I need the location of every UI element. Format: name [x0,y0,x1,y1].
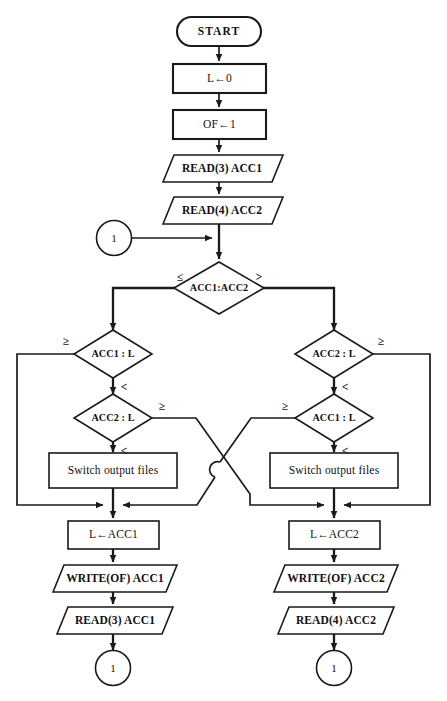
node-read4-top[interactable]: READ(4) ACC2 [163,197,283,224]
branch-label-left-acc1-ge: ≥ [63,335,69,347]
node-connector-exit-right[interactable]: 1 [317,651,352,686]
node-decision-main-label: ACC1:ACC2 [190,282,249,293]
node-read4-top-label: READ(4) ACC2 [182,204,262,217]
branch-label-right-acc2-lt: < [342,381,349,393]
node-set-l-acc1[interactable]: L←ACC1 [68,521,159,549]
node-connector-exit-left-label: 1 [110,662,116,674]
node-decision-left-acc1-label: ACC1 : L [91,348,134,359]
node-set-l-acc2-label: L←ACC2 [310,528,359,540]
node-start-label: START [198,25,241,37]
branch-label-right-acc2-ge: ≥ [378,335,384,347]
node-read3-top-label: READ(3) ACC1 [182,162,262,175]
node-connector-exit-left[interactable]: 1 [96,651,131,686]
node-read3-bottom[interactable]: READ(3) ACC1 [57,607,173,634]
node-write-acc2-label: WRITE(OF) ACC2 [287,572,385,585]
node-decision-right-acc1-label: ACC1 : L [312,412,355,423]
node-read4-bottom-label: READ(4) ACC2 [296,614,376,627]
node-decision-main[interactable]: ACC1:ACC2 [174,262,264,314]
node-switch-left-label: Switch output files [68,464,159,477]
node-connector-exit-right-label: 1 [331,662,337,674]
branch-label-right-acc1-ge: ≥ [282,400,288,412]
node-init-l[interactable]: L←0 [173,64,266,93]
node-decision-right-acc2-label: ACC2 : L [312,348,355,359]
node-switch-left[interactable]: Switch output files [49,453,177,488]
node-read3-top[interactable]: READ(3) ACC1 [163,155,283,182]
branch-label-left-acc2-lt: < [121,445,128,457]
node-decision-left-acc2[interactable]: ACC2 : L [74,394,152,442]
branch-label-main-right: > [256,271,263,283]
node-set-l-acc2[interactable]: L←ACC2 [289,521,380,549]
branch-label-right-acc1-lt: < [342,445,349,457]
branch-label-main-left: ≤ [177,271,183,283]
node-decision-left-acc2-label: ACC2 : L [91,412,134,423]
node-write-acc2[interactable]: WRITE(OF) ACC2 [274,565,398,592]
node-switch-right-label: Switch output files [289,464,380,477]
node-connector-entry[interactable]: 1 [97,221,132,256]
branch-label-left-acc1-lt: < [121,381,128,393]
node-read3-bottom-label: READ(3) ACC1 [75,614,155,627]
node-set-l-acc1-label: L←ACC1 [89,528,138,540]
node-decision-left-acc1[interactable]: ACC1 : L [74,330,152,378]
node-write-acc1-label: WRITE(OF) ACC1 [66,572,164,585]
node-start[interactable]: START [177,17,261,46]
node-decision-right-acc1[interactable]: ACC1 : L [295,394,373,442]
node-init-of-label: OF←1 [203,118,236,130]
node-switch-right[interactable]: Switch output files [270,453,398,488]
edge-main-right-branch [263,288,334,330]
branch-label-left-acc2-ge: ≥ [159,400,165,412]
line-hop-arc [210,462,220,477]
flowchart-canvas: START L←0 OF←1 READ(3) ACC1 READ(4) ACC2… [0,0,447,701]
node-init-l-label: L←0 [207,72,232,84]
node-decision-right-acc2[interactable]: ACC2 : L [295,330,373,378]
node-read4-bottom[interactable]: READ(4) ACC2 [278,607,394,634]
node-init-of[interactable]: OF←1 [173,110,266,139]
edge-main-left-branch [113,288,175,330]
node-write-acc1[interactable]: WRITE(OF) ACC1 [53,565,177,592]
flowchart-svg: START L←0 OF←1 READ(3) ACC1 READ(4) ACC2… [0,0,447,701]
node-connector-entry-label: 1 [111,232,117,244]
